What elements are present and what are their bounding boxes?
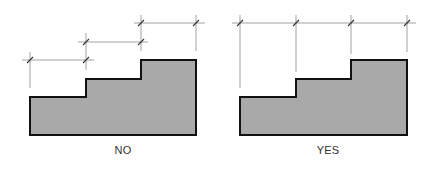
dimensioning-diagram	[0, 0, 437, 169]
label-yes: YES	[317, 144, 340, 156]
stepped-shape	[240, 60, 407, 135]
label-no: NO	[115, 144, 132, 156]
stepped-shape	[30, 60, 196, 135]
panel-yes-baseline-dimensions	[232, 15, 416, 135]
panel-no-chained-dimensions	[22, 15, 205, 135]
